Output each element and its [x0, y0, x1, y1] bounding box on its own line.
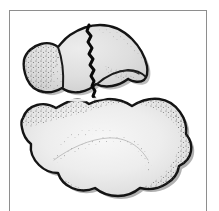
lower-fragment [20, 97, 194, 200]
fragment-illustration [0, 0, 219, 211]
figure-root: Line drawing of two irregular fossil bon… [0, 0, 219, 211]
upper-fragment [22, 25, 151, 105]
